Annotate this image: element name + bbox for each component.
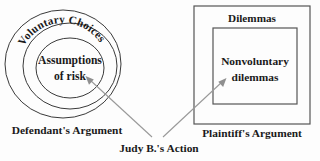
venn-and-box-diagram: Voluntary Choices Assumptions of risk De… <box>0 0 320 161</box>
diagram-canvas: Voluntary Choices Assumptions of risk De… <box>0 0 320 161</box>
plaintiff-argument-caption: Plaintiff's Argument <box>202 127 302 139</box>
inner-circle-assumptions-of-risk <box>36 38 104 98</box>
inner-circle-label-line2: of risk <box>54 70 86 83</box>
inner-circle-label-line1: Assumptions <box>38 54 102 67</box>
defendant-argument-caption: Defendant's Argument <box>12 124 123 136</box>
outer-rect-label: Dilemmas <box>228 12 276 24</box>
judy-action-label: Judy B.'s Action <box>119 142 199 154</box>
inner-rect-label-line2: dilemmas <box>232 71 279 83</box>
inner-rect-label-line1: Nonvoluntary <box>221 55 289 67</box>
